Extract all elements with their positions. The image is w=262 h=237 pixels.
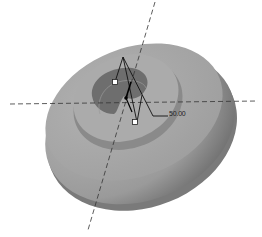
dimension-value[interactable]: 50.00 bbox=[169, 110, 186, 117]
cad-3d-viewport[interactable]: 50.00 bbox=[0, 0, 262, 237]
drag-handle-lower[interactable] bbox=[133, 120, 138, 125]
model-render bbox=[0, 0, 262, 237]
center-point bbox=[124, 96, 128, 100]
drag-handle-upper[interactable] bbox=[113, 80, 118, 85]
